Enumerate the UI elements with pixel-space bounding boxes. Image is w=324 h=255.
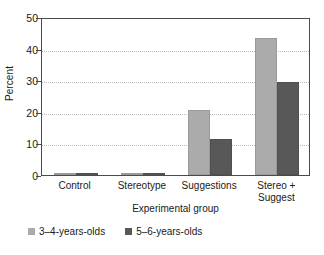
y-axis-tick-label: 10 [0, 139, 38, 149]
y-axis-tick-label: 20 [0, 108, 38, 118]
y-axis-tick-label: 0 [0, 171, 38, 181]
y-axis-tick-mark [36, 176, 41, 177]
legend-label: 5–6-years-olds [136, 226, 202, 237]
x-axis-tick-label: Stereotype [108, 180, 175, 192]
bar-group [188, 19, 232, 175]
plot-area [41, 18, 310, 176]
bar [143, 173, 165, 175]
bar [76, 173, 98, 175]
bar [188, 110, 210, 175]
bars-layer [42, 19, 309, 175]
bar [255, 38, 277, 175]
y-axis-tick-label: 40 [0, 45, 38, 55]
bar-chart-figure: Percent 01020304050 ControlStereotypeSug… [0, 0, 324, 255]
bar [54, 173, 76, 175]
dark-gray-swatch-icon [125, 228, 132, 235]
x-axis-tick-label: Control [41, 180, 108, 192]
x-axis-tick-label: Suggestions [176, 180, 243, 192]
y-axis-tick-label: 50 [0, 13, 38, 23]
x-axis-title: Experimental group [41, 203, 310, 214]
bar [121, 173, 143, 175]
legend-label: 3–4-years-olds [39, 226, 105, 237]
bar-group [121, 19, 165, 175]
bar [277, 82, 299, 175]
bar-group [54, 19, 98, 175]
bar [210, 139, 232, 175]
chart-legend: 3–4-years-olds5–6-years-olds [28, 226, 202, 237]
legend-item: 3–4-years-olds [28, 226, 105, 237]
y-axis-tick-label: 30 [0, 76, 38, 86]
light-gray-swatch-icon [28, 228, 35, 235]
bar-group [255, 19, 299, 175]
x-axis-tick-label: Stereo + Suggest [243, 180, 310, 203]
legend-item: 5–6-years-olds [125, 226, 202, 237]
